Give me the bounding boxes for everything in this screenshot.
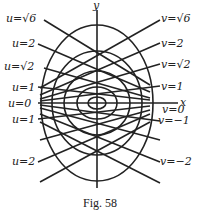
- v-label-2: v=2: [161, 38, 183, 49]
- v-label-sqrt2: v=√2: [161, 59, 190, 70]
- u-label-0: u=0: [8, 98, 31, 109]
- y-axis-label: y: [93, 0, 99, 11]
- u-label-sqrt6: u=√6: [6, 13, 36, 24]
- v-label-sqrt6: v=√6: [161, 13, 190, 24]
- u-label-1: u=1: [12, 82, 35, 93]
- v-line-extra: [40, 122, 160, 183]
- v-label-neg1: v=−1: [158, 115, 190, 126]
- u-label-2: u=2: [12, 38, 35, 49]
- v-label-1: v=1: [161, 81, 183, 92]
- figure-caption: Fig. 58: [83, 196, 117, 211]
- u-label-2-lower: u=2: [12, 156, 35, 167]
- u-label-1-lower: u=1: [12, 114, 35, 125]
- v-label-neg2: v=−2: [160, 156, 192, 167]
- u-label-sqrt2: u=√2: [4, 61, 34, 72]
- v-line-sqrt6: [40, 20, 160, 88]
